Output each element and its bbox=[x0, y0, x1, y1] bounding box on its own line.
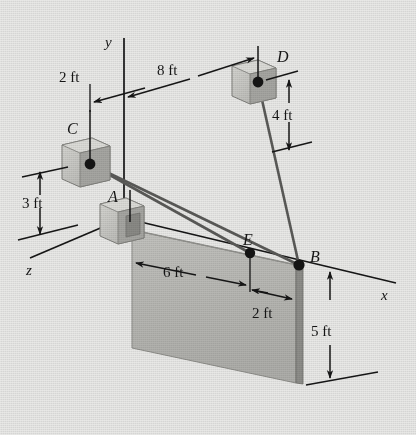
point-e-label: E bbox=[242, 231, 253, 248]
dim-5ft-label: 5 ft bbox=[311, 323, 332, 339]
statics-diagram: y x z C bbox=[0, 0, 416, 435]
plate-right-edge bbox=[296, 265, 303, 384]
figure-container: y x z C bbox=[0, 0, 416, 435]
dim-6ft-label: 6 ft bbox=[163, 264, 184, 280]
block-c-side bbox=[80, 146, 110, 187]
z-axis-label: z bbox=[25, 262, 32, 278]
figure-background bbox=[0, 0, 416, 435]
x-axis-label: x bbox=[380, 287, 388, 303]
point-d-label: D bbox=[276, 48, 289, 65]
block-d-side bbox=[250, 68, 276, 104]
dim-4ft-label: 4 ft bbox=[272, 107, 293, 123]
point-b-marker bbox=[293, 259, 304, 270]
point-d-marker bbox=[253, 77, 264, 88]
dim-2ft-plate-label: 2 ft bbox=[252, 305, 273, 321]
block-a-notch bbox=[126, 213, 140, 237]
dim-8ft-label: 8 ft bbox=[157, 62, 178, 78]
point-c-marker bbox=[85, 159, 96, 170]
block-a bbox=[100, 198, 144, 244]
y-axis-label: y bbox=[103, 34, 112, 50]
point-c-label: C bbox=[67, 120, 78, 137]
point-a-label: A bbox=[107, 188, 118, 205]
point-b-label: B bbox=[310, 248, 320, 265]
dim-3ft-label: 3 ft bbox=[22, 195, 43, 211]
dim-2ft-top-label: 2 ft bbox=[59, 69, 80, 85]
